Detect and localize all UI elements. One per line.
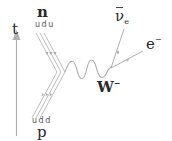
w-boson-label: W− xyxy=(97,80,121,95)
antineutrino-symbol: ν xyxy=(115,9,124,24)
neutron-quarks: udu xyxy=(35,21,55,29)
time-axis-label: t xyxy=(12,22,18,37)
feynman-diagram xyxy=(0,0,172,141)
time-axis-arrow xyxy=(13,30,21,136)
electron-label: e− xyxy=(146,37,162,52)
proton-label: p xyxy=(37,125,47,140)
quark-lines xyxy=(32,33,65,118)
antineutrino-label: νe xyxy=(115,9,129,24)
neutron-label: n xyxy=(37,5,48,20)
w-boson-propagator xyxy=(65,60,111,79)
